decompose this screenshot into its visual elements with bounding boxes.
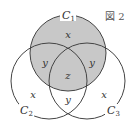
venn-diagram: C1 C2 C3 図 2 x y y z x y x	[0, 0, 135, 129]
region-c1-c2: y	[41, 57, 48, 68]
region-c1-only: x	[65, 29, 71, 40]
region-c1-c3: y	[88, 57, 95, 68]
region-c2-c3: y	[64, 94, 71, 105]
region-all-three: z	[64, 70, 71, 81]
region-c3-only: x	[101, 89, 107, 100]
figure-label: 図 2	[105, 11, 125, 22]
region-c2-only: x	[30, 89, 36, 100]
